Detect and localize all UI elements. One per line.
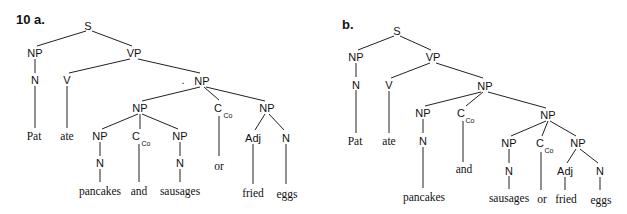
node-np-subject: NP: [348, 51, 363, 63]
node-n-sausages: N: [176, 157, 184, 169]
word-fried: fried: [242, 187, 264, 199]
node-c-and: C: [132, 130, 140, 142]
tree-a-label: 10 a.: [16, 12, 45, 27]
node-c-or-subscript: Co: [224, 112, 233, 119]
node-vp: VP: [426, 51, 441, 63]
node-n-sausages: N: [505, 165, 513, 177]
word-or: or: [537, 193, 547, 205]
node-v: V: [385, 79, 393, 91]
node-np-sausages: NP: [172, 130, 187, 142]
node-adj: Adj: [557, 165, 573, 177]
node-s: S: [84, 20, 91, 32]
node-n-eggs: N: [596, 165, 604, 177]
word-sausages: sausages: [489, 192, 530, 205]
word-pat: Pat: [348, 135, 364, 147]
node-c-or-subscript: Co: [545, 147, 554, 154]
word-and: and: [131, 185, 148, 197]
node-n-subject: N: [352, 79, 360, 91]
word-and: and: [456, 163, 473, 175]
word-eggs: eggs: [590, 194, 612, 207]
word-ate: ate: [60, 130, 73, 142]
word-or: or: [214, 160, 224, 172]
word-sausages: sausages: [160, 185, 201, 198]
node-c-and-subscript: Co: [142, 140, 151, 147]
node-np-conjoined: NP: [540, 109, 555, 121]
node-np-subject: NP: [27, 47, 42, 59]
node-np-fried-eggs: NP: [570, 137, 585, 149]
node-n-subject: N: [31, 74, 39, 86]
node-adj: Adj: [245, 132, 261, 144]
word-ate: ate: [382, 135, 395, 147]
node-c-and-subscript: Co: [466, 117, 475, 124]
node-v: V: [63, 74, 71, 86]
word-pat: Pat: [27, 130, 43, 142]
node-np-object: NP: [194, 75, 209, 87]
syntax-tree-figure: 10 a. S N: [0, 0, 627, 214]
tree-b: b. S NP N P: [342, 17, 612, 207]
node-np-fried-eggs: NP: [259, 102, 274, 114]
tree-a-edges: [35, 31, 286, 184]
node-s: S: [393, 25, 400, 37]
node-n-eggs: N: [282, 132, 290, 144]
node-n-pancakes: N: [419, 135, 427, 147]
node-np-pancakes: NP: [415, 107, 430, 119]
node-np-conjoined: NP: [132, 102, 147, 114]
word-pancakes: pancakes: [403, 191, 446, 204]
tree-a: 10 a. S N: [16, 12, 298, 201]
stray-dot: .: [181, 74, 184, 86]
tree-b-label: b.: [342, 17, 354, 32]
node-c-or: C: [536, 137, 544, 149]
node-c-or: C: [214, 102, 222, 114]
node-np-pancakes: NP: [92, 130, 107, 142]
node-c-and: C: [457, 107, 465, 119]
node-n-pancakes: N: [96, 157, 104, 169]
word-pancakes: pancakes: [79, 185, 122, 198]
word-eggs: eggs: [276, 188, 298, 201]
word-fried: fried: [555, 193, 577, 205]
node-np-sausages: NP: [501, 137, 516, 149]
node-vp: VP: [127, 47, 142, 59]
node-np-object: NP: [477, 80, 492, 92]
